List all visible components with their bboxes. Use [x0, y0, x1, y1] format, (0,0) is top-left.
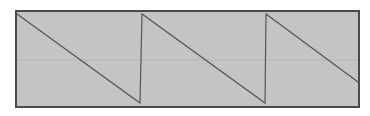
- sawtooth-trace: [17, 14, 358, 103]
- oscilloscope-display: [0, 0, 370, 116]
- sawtooth-waveform-plot: [0, 0, 370, 116]
